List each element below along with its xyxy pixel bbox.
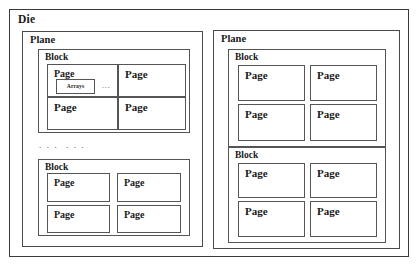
die-container: Die Plane Block Page Arrays ... Page Pag… xyxy=(9,9,409,257)
block-label: Block xyxy=(45,52,68,62)
page-label: Page xyxy=(317,108,340,120)
page-label: Page xyxy=(245,167,268,179)
block: Block Page Page Page Page xyxy=(228,147,386,243)
page: Page xyxy=(310,65,377,101)
page: Page Arrays ... xyxy=(47,64,118,97)
page-label: Page xyxy=(317,167,340,179)
page-label: Page xyxy=(124,177,145,188)
page: Page xyxy=(238,65,305,101)
arrays-label: Arrays xyxy=(57,83,94,89)
page: Page xyxy=(238,201,305,237)
page: Page xyxy=(47,97,118,130)
page: Page xyxy=(310,104,377,141)
plane-right: Plane Block Page Page Page Page Block Pa… xyxy=(213,30,400,249)
block: Block Page Page Page Page xyxy=(228,49,386,147)
page: Page xyxy=(47,173,110,202)
page-label: Page xyxy=(317,69,340,81)
page-label: Page xyxy=(125,101,148,113)
page-label: Page xyxy=(245,69,268,81)
plane-label: Plane xyxy=(221,33,246,44)
page: Page xyxy=(310,201,377,237)
page: Page xyxy=(238,163,305,198)
plane-left: Plane Block Page Arrays ... Page Page Pa… xyxy=(22,31,203,247)
page-label: Page xyxy=(124,209,145,220)
block-label: Block xyxy=(235,150,258,160)
page-label: Page xyxy=(54,177,75,188)
block-separator-ellipsis: . . . . . . xyxy=(39,140,85,150)
page-label: Page xyxy=(54,101,77,113)
page-label: Page xyxy=(245,108,268,120)
page: Page xyxy=(238,104,305,141)
block-label: Block xyxy=(235,52,258,62)
page: Page xyxy=(47,205,110,233)
plane-label: Plane xyxy=(30,34,55,45)
page: Page xyxy=(117,205,181,233)
block: Block Page Page Page Page xyxy=(38,159,190,236)
arrays-box: Arrays xyxy=(56,79,95,94)
die-label: Die xyxy=(18,13,35,25)
page-label: Page xyxy=(317,205,340,217)
page-ellipsis: ... xyxy=(102,82,111,90)
page: Page xyxy=(118,64,186,97)
page-label: Page xyxy=(245,205,268,217)
page: Page xyxy=(310,163,377,198)
block: Block Page Arrays ... Page Page Page xyxy=(38,49,190,133)
page-label: Page xyxy=(125,68,148,80)
page-label: Page xyxy=(54,209,75,220)
page: Page xyxy=(118,97,186,130)
page-label: Page xyxy=(54,68,75,79)
block-label: Block xyxy=(45,162,68,172)
page: Page xyxy=(117,173,181,202)
